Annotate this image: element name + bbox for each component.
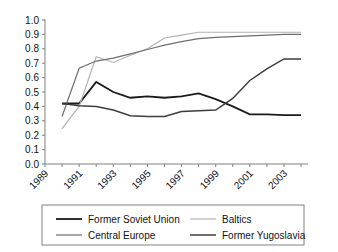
y-tick-label: 0.8 — [25, 43, 39, 54]
series-line-former-yugoslavia — [62, 59, 301, 117]
y-tick-label: 0.9 — [25, 29, 39, 40]
x-tick-label: 2001 — [232, 167, 256, 191]
y-tick-label: 0.6 — [25, 72, 39, 83]
y-tick-label: 0.2 — [25, 130, 39, 141]
x-tick-label: 1995 — [129, 167, 153, 191]
legend-label-former-yugoslavia: Former Yugoslavia — [222, 230, 306, 241]
chart-svg: 0.00.10.20.30.40.50.60.70.80.91.0 198919… — [0, 0, 338, 252]
x-tick-label: 1999 — [198, 167, 222, 191]
x-tick-label: 1997 — [163, 167, 187, 191]
y-tick-label: 1.0 — [25, 15, 39, 26]
y-tick-label: 0.3 — [25, 115, 39, 126]
series-line-former-soviet-union — [62, 82, 301, 115]
x-tick-label: 1989 — [27, 167, 51, 191]
x-axis: 19891991199319951997199920012003 — [27, 164, 308, 191]
y-tick-label: 0.1 — [25, 144, 39, 155]
y-tick-label: 0.0 — [25, 159, 39, 170]
y-axis: 0.00.10.20.30.40.50.60.70.80.91.0 — [25, 15, 45, 170]
legend-label-former-soviet-union: Former Soviet Union — [88, 214, 180, 225]
x-tick-label: 1991 — [61, 167, 85, 191]
x-tick-label: 2003 — [266, 167, 290, 191]
y-tick-label: 0.4 — [25, 101, 39, 112]
chart-legend: Former Soviet UnionBalticsCentral Europe… — [42, 205, 306, 245]
x-tick-label: 1993 — [95, 167, 119, 191]
y-tick-label: 0.7 — [25, 58, 39, 69]
legend-label-central-europe: Central Europe — [88, 230, 156, 241]
line-chart: 0.00.10.20.30.40.50.60.70.80.91.0 198919… — [0, 0, 338, 252]
legend-label-baltics: Baltics — [222, 214, 251, 225]
y-tick-label: 0.5 — [25, 87, 39, 98]
series-lines — [62, 32, 301, 128]
series-line-central-europe — [62, 34, 301, 116]
